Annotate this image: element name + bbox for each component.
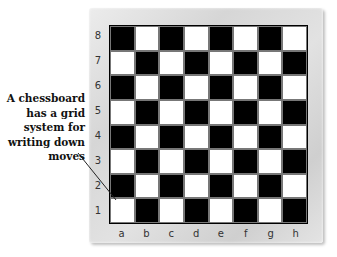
pointer-line bbox=[0, 0, 337, 257]
